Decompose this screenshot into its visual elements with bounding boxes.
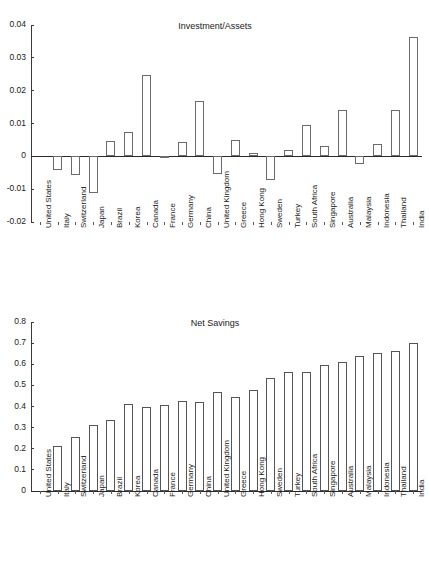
x-tick-mark xyxy=(289,222,290,225)
bar xyxy=(124,404,133,491)
x-tick-mark xyxy=(324,222,325,225)
x-tick-mark xyxy=(182,222,183,225)
x-axis-label: Greece xyxy=(239,471,248,497)
bar xyxy=(391,110,400,156)
x-axis-label: France xyxy=(168,203,177,228)
chart-panel-net-savings: Net Savings 0.80.70.60.50.40.30.20.10 Un… xyxy=(0,300,429,583)
bar xyxy=(53,156,62,170)
x-axis-label: Turkey xyxy=(293,204,302,228)
bar xyxy=(142,75,151,156)
x-axis-label: Switzerland xyxy=(79,187,88,228)
x-axis-label: Singapore xyxy=(328,461,337,497)
y-tick-label: 0.7 xyxy=(14,337,26,348)
y-tick-label: 0 xyxy=(21,150,26,161)
y-tick-label: 0.3 xyxy=(14,422,26,433)
x-axis-label: Sweden xyxy=(275,468,284,497)
x-axis-label: Brazil xyxy=(115,477,124,497)
x-axis-label: China xyxy=(204,476,213,497)
y-tick-label: 0.1 xyxy=(14,464,26,475)
x-axis-label: United Kingdom xyxy=(222,171,231,228)
x-tick-mark xyxy=(342,491,343,494)
x-tick-mark xyxy=(378,222,379,225)
x-tick-mark xyxy=(235,491,236,494)
x-axis-label: Indonesia xyxy=(382,462,391,497)
x-axis-label: Germany xyxy=(186,464,195,497)
x-tick-mark xyxy=(271,491,272,494)
x-tick-mark xyxy=(147,222,148,225)
x-tick-mark xyxy=(324,491,325,494)
bar xyxy=(409,343,418,491)
bar xyxy=(213,392,222,491)
x-tick-mark xyxy=(413,222,414,225)
x-tick-mark xyxy=(182,491,183,494)
y-tick-label: 0.2 xyxy=(14,443,26,454)
bar xyxy=(355,356,364,491)
x-tick-mark xyxy=(129,491,130,494)
bar xyxy=(89,156,98,193)
x-axis-label: Canada xyxy=(151,469,160,497)
x-tick-mark xyxy=(164,491,165,494)
y-tick-label: -0.01 xyxy=(7,183,26,194)
x-axis-label: Greece xyxy=(239,202,248,228)
x-axis-label: Sweden xyxy=(275,199,284,228)
x-tick-mark xyxy=(111,491,112,494)
x-axis-label: Thailand xyxy=(399,197,408,228)
x-tick-mark xyxy=(360,491,361,494)
chart-panel-investment-assets: Investment/Assets 0.040.030.020.010-0.01… xyxy=(0,0,429,300)
bar xyxy=(71,156,80,174)
y-tick-label: 0.6 xyxy=(14,358,26,369)
x-tick-mark xyxy=(129,222,130,225)
x-tick-mark xyxy=(253,222,254,225)
bar xyxy=(195,101,204,157)
x-tick-mark xyxy=(413,491,414,494)
x-axis-label: Malaysia xyxy=(364,465,373,497)
x-tick-mark xyxy=(235,222,236,225)
bar xyxy=(320,146,329,156)
bar xyxy=(231,140,240,157)
bar xyxy=(213,156,222,174)
x-axis-label: United States xyxy=(44,180,53,228)
bar xyxy=(178,142,187,156)
x-tick-mark xyxy=(40,222,41,225)
x-tick-mark xyxy=(58,222,59,225)
bar xyxy=(284,150,293,156)
bar xyxy=(124,132,133,157)
x-axis-label: Singapore xyxy=(328,192,337,228)
x-tick-mark xyxy=(378,491,379,494)
x-axis-label: Turkey xyxy=(293,473,302,497)
x-axis-label: Japan xyxy=(97,475,106,497)
bar xyxy=(338,110,347,156)
x-axis-label: Indonesia xyxy=(382,193,391,228)
bar xyxy=(373,144,382,156)
bar xyxy=(302,125,311,156)
bar xyxy=(409,37,418,156)
x-axis-label: Japan xyxy=(97,206,106,228)
x-tick-mark xyxy=(164,222,165,225)
bar xyxy=(355,156,364,164)
x-axis-label: Brazil xyxy=(115,208,124,228)
x-tick-mark xyxy=(360,222,361,225)
x-axis-label: Malaysia xyxy=(364,196,373,228)
x-tick-mark xyxy=(342,222,343,225)
bar xyxy=(53,446,62,491)
x-axis-label: South Africa xyxy=(310,454,319,497)
y-tick-label: 0.03 xyxy=(9,52,26,63)
x-axis-label: United Kingdom xyxy=(222,440,231,497)
x-tick-mark xyxy=(58,491,59,494)
x-tick-mark xyxy=(200,491,201,494)
x-tick-mark xyxy=(111,222,112,225)
y-tick-label: 0.02 xyxy=(9,85,26,96)
x-tick-mark xyxy=(253,491,254,494)
bar xyxy=(106,141,115,157)
x-tick-mark xyxy=(218,491,219,494)
x-tick-mark xyxy=(395,491,396,494)
x-axis-label: Italy xyxy=(62,213,71,228)
y-tick-label: 0.5 xyxy=(14,379,26,390)
x-tick-mark xyxy=(40,491,41,494)
x-axis-label: Australia xyxy=(346,197,355,228)
x-tick-mark xyxy=(75,491,76,494)
y-tick-label: 0.01 xyxy=(9,118,26,129)
x-axis-label: Italy xyxy=(62,482,71,497)
x-axis-label: France xyxy=(168,472,177,497)
figure-root: Investment/Assets 0.040.030.020.010-0.01… xyxy=(0,0,429,583)
